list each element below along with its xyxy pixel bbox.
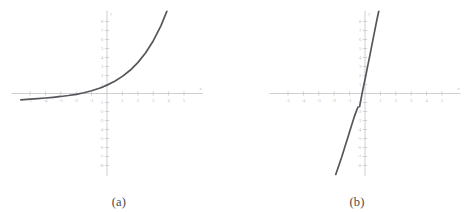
x-axis-tick-label: 1 xyxy=(121,98,124,103)
y-axis-tick-label: -6 xyxy=(100,145,105,150)
figure-container: -5-4-3-2-112345-8-7-6-5-4-3-2-112345678x… xyxy=(0,0,476,212)
x-axis-tick-label: 5 xyxy=(441,98,444,103)
y-axis-tick-label: 8 xyxy=(359,19,362,24)
x-axis-tick-label: 4 xyxy=(425,98,428,103)
chart-b: -5-4-3-2-112345-8-7-6-5-4-3-2-112345678x… xyxy=(238,0,476,186)
caption-b: (b) xyxy=(238,195,476,210)
x-axis-tick-label: -2 xyxy=(74,98,79,103)
y-axis-tick-label: -6 xyxy=(358,145,363,150)
x-axis-tick-label: -4 xyxy=(301,98,306,103)
plot-area-a: -5-4-3-2-112345-8-7-6-5-4-3-2-112345678x… xyxy=(0,0,238,186)
y-axis-tick-label: 2 xyxy=(101,73,104,78)
y-axis-tick-label: -3 xyxy=(100,118,105,123)
x-axis-tick-label: -1 xyxy=(90,98,95,103)
y-axis-tick-label: 8 xyxy=(101,19,104,24)
y-axis-tick-label: 4 xyxy=(359,55,362,60)
y-axis-tick-label: -2 xyxy=(100,109,105,114)
y-axis-tick-label: -2 xyxy=(358,109,363,114)
y-axis-tick-label: 4 xyxy=(101,55,104,60)
x-axis-tick-label: 2 xyxy=(137,98,140,103)
y-axis-tick-label: -7 xyxy=(100,154,105,159)
y-axis-tick-label: 7 xyxy=(101,28,104,33)
x-axis-tick-label: -5 xyxy=(286,98,291,103)
data-curve xyxy=(360,11,379,107)
x-axis-tick-label: -2 xyxy=(332,98,337,103)
data-curve xyxy=(336,107,358,175)
x-axis-tick-label: -3 xyxy=(317,98,322,103)
y-axis-tick-label: 3 xyxy=(359,64,362,69)
y-axis-tick-label: -3 xyxy=(358,118,363,123)
y-axis-tick-label: 6 xyxy=(101,37,104,42)
plot-area-b: -5-4-3-2-112345-8-7-6-5-4-3-2-112345678x… xyxy=(238,0,476,186)
y-axis-tick-label: -5 xyxy=(100,136,105,141)
x-axis-tick-label: 1 xyxy=(379,98,382,103)
y-axis-tick-label: -1 xyxy=(100,100,105,105)
figure-panel-a: -5-4-3-2-112345-8-7-6-5-4-3-2-112345678x… xyxy=(0,0,238,212)
x-axis-tick-label: 2 xyxy=(395,98,398,103)
x-axis-tick-label: -3 xyxy=(59,98,64,103)
y-axis-tick-label: -5 xyxy=(358,136,363,141)
y-axis-tick-label: 6 xyxy=(359,37,362,42)
y-axis-tick-label: 1 xyxy=(359,82,362,87)
y-axis-tick-label: -7 xyxy=(358,154,363,159)
y-axis-tick-label: 2 xyxy=(359,73,362,78)
x-axis-tick-label: 3 xyxy=(410,98,413,103)
y-axis-tick-label: 5 xyxy=(101,46,104,51)
x-axis-tick-label: -1 xyxy=(348,98,353,103)
y-axis-tick-label: -8 xyxy=(358,163,363,168)
y-axis-label: y xyxy=(367,11,371,16)
y-axis-tick-label: -4 xyxy=(358,127,363,132)
y-axis-tick-label: 5 xyxy=(359,46,362,51)
x-axis-tick-label: 4 xyxy=(167,98,170,103)
chart-a: -5-4-3-2-112345-8-7-6-5-4-3-2-112345678x… xyxy=(0,0,238,186)
x-axis-label: x xyxy=(456,86,459,91)
y-axis-tick-label: -4 xyxy=(100,127,105,132)
caption-a: (a) xyxy=(0,195,238,210)
data-curve xyxy=(21,0,189,100)
figure-panel-b: -5-4-3-2-112345-8-7-6-5-4-3-2-112345678x… xyxy=(238,0,476,212)
x-axis-tick-label: 5 xyxy=(183,98,186,103)
x-axis-label: x xyxy=(198,86,201,91)
y-axis-label: y xyxy=(109,11,113,16)
y-axis-tick-label: -8 xyxy=(100,163,105,168)
x-axis-tick-label: 3 xyxy=(152,98,155,103)
y-axis-tick-label: 3 xyxy=(101,64,104,69)
y-axis-tick-label: 7 xyxy=(359,28,362,33)
